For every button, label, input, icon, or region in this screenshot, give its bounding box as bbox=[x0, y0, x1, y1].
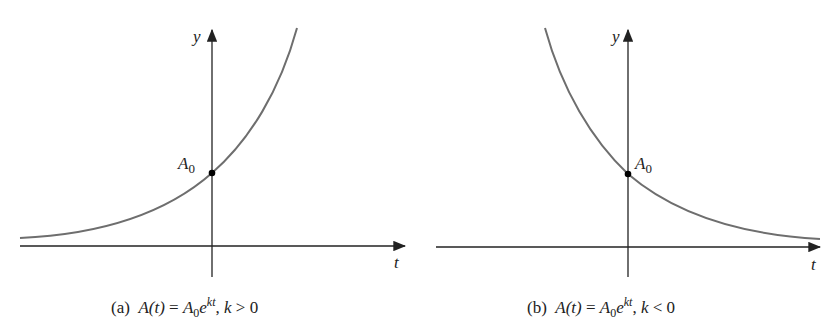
a0-point bbox=[625, 171, 632, 178]
caption-a: (a) A(t) = A0ekt, k > 0 bbox=[111, 295, 258, 321]
panel-a: y t A0 bbox=[20, 27, 405, 277]
decay-curve bbox=[545, 28, 820, 239]
panel-b: y t A0 bbox=[436, 27, 820, 277]
t-axis-label: t bbox=[811, 255, 817, 274]
growth-curve bbox=[20, 28, 297, 238]
t-axis-label: t bbox=[394, 253, 400, 272]
figure: y t A0 y t A0 bbox=[0, 0, 833, 336]
y-axis-label: y bbox=[191, 27, 201, 46]
a0-label: A0 bbox=[177, 154, 195, 176]
a0-label: A0 bbox=[634, 154, 652, 176]
a0-point bbox=[209, 170, 216, 177]
y-axis-label: y bbox=[610, 27, 620, 46]
caption-b: (b) A(t) = A0ekt, k < 0 bbox=[527, 295, 675, 321]
